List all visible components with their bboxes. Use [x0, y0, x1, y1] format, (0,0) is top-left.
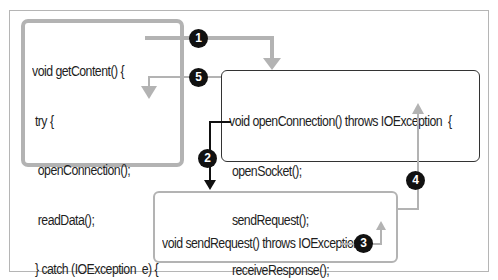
arrows-layer	[0, 0, 498, 280]
step-badge-2: 2	[198, 149, 217, 168]
arrow-3-head	[376, 221, 386, 230]
step-badge-5: 5	[189, 68, 208, 87]
step-badge-4: 4	[406, 171, 425, 190]
arrow-5	[141, 77, 221, 99]
arrow-5-head	[141, 86, 157, 99]
arrow-1	[145, 38, 281, 70]
arrow-4	[398, 103, 424, 209]
step-badge-1: 1	[189, 29, 208, 48]
arrow-4-head	[412, 103, 424, 114]
step-badge-3: 3	[354, 234, 373, 253]
arrow-2-head	[204, 180, 216, 190]
arrow-1-head	[263, 58, 281, 70]
